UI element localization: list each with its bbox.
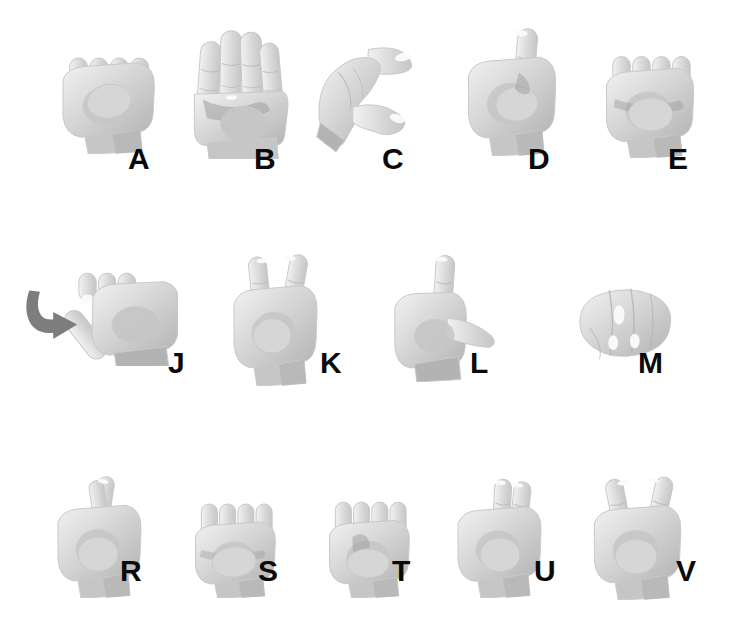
letter-label-e: E xyxy=(668,144,688,174)
asl-alphabet-chart: A B xyxy=(0,0,740,633)
hand-sign-u-icon xyxy=(448,478,548,598)
letter-label-u: U xyxy=(534,556,556,586)
motion-arrow-icon xyxy=(22,288,82,340)
letter-label-m: M xyxy=(638,348,663,378)
letter-label-t: T xyxy=(392,556,410,586)
letter-label-k: K xyxy=(320,348,342,378)
letter-label-d: D xyxy=(528,144,550,174)
hand-sign-e-icon xyxy=(596,40,701,158)
hand-sign-a-icon xyxy=(52,34,162,154)
letter-label-j: J xyxy=(168,348,185,378)
hand-sign-b-icon xyxy=(186,24,291,159)
letter-label-c: C xyxy=(382,144,404,174)
letter-label-s: S xyxy=(258,556,278,586)
letter-label-a: A xyxy=(128,144,150,174)
letter-label-l: L xyxy=(470,348,488,378)
letter-label-b: B xyxy=(254,144,276,174)
hand-sign-d-icon xyxy=(458,26,563,156)
hand-sign-k-icon xyxy=(224,254,324,386)
hand-sign-v-icon xyxy=(584,476,688,600)
letter-label-r: R xyxy=(120,556,142,586)
hand-sign-c-icon xyxy=(312,38,432,153)
letter-label-v: V xyxy=(676,556,696,586)
